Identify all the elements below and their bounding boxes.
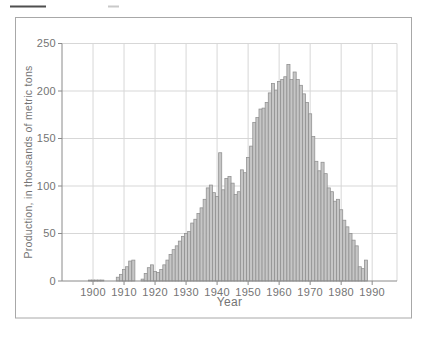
histogram-bar: [163, 265, 166, 281]
histogram-bar: [346, 227, 349, 281]
figure-page: 0501001502002501900191019201930194019501…: [0, 0, 429, 337]
histogram-bar: [262, 108, 265, 281]
histogram-bar: [222, 190, 225, 281]
histogram-bar: [147, 268, 150, 281]
histogram-bar: [306, 102, 309, 281]
x-tick-label: 1970: [297, 286, 323, 298]
x-axis-title: Year: [217, 295, 242, 309]
y-axis-title: Production, in thousands of metric tons: [22, 65, 34, 258]
histogram-bar: [194, 219, 197, 281]
y-tick-label: 50: [43, 227, 56, 239]
histogram-bar: [290, 80, 293, 281]
histogram-bar: [237, 192, 240, 281]
histogram-bar: [247, 158, 250, 282]
histogram-bar: [330, 192, 333, 281]
x-tick-label: 1980: [328, 286, 354, 298]
histogram-bar: [268, 93, 271, 281]
histogram-bar: [240, 170, 243, 281]
histogram-bar: [116, 277, 119, 281]
histogram-bar: [191, 223, 194, 281]
histogram-bar: [157, 272, 160, 281]
histogram-bar: [309, 114, 312, 281]
histogram-bar: [343, 220, 346, 281]
histogram-bar: [355, 246, 358, 281]
histogram-bar: [271, 83, 274, 281]
histogram-bar: [274, 90, 277, 281]
x-tick-label: 1920: [142, 286, 168, 298]
histogram-bar: [278, 82, 281, 282]
histogram-bar: [293, 72, 296, 281]
histogram-bar: [318, 171, 321, 281]
histogram-bar: [231, 183, 234, 281]
histogram-bar: [203, 199, 206, 281]
histogram-bar: [175, 246, 178, 281]
histogram-bar: [321, 162, 324, 281]
histogram-bar: [265, 102, 268, 281]
histogram-bar: [206, 188, 209, 281]
y-tick-label: 200: [37, 85, 56, 97]
histogram-bar: [122, 270, 125, 281]
histogram-bar: [312, 137, 315, 281]
histogram-bar: [234, 195, 237, 281]
histogram-bar: [228, 177, 231, 282]
histogram-bar: [181, 236, 184, 281]
histogram-bar: [178, 241, 181, 281]
histogram-bar: [119, 274, 122, 281]
histogram-bar: [296, 80, 299, 281]
y-tick-label: 0: [50, 275, 56, 287]
histogram-bar: [333, 201, 336, 281]
histogram-bar: [287, 64, 290, 281]
histogram-bar: [315, 161, 318, 281]
histogram-bar: [132, 260, 135, 281]
histogram-bar: [327, 188, 330, 281]
histogram-bar: [209, 185, 212, 281]
y-tick-label: 150: [37, 132, 56, 144]
x-tick-label: 1910: [111, 286, 137, 298]
histogram-bar: [361, 269, 364, 281]
histogram-bar: [281, 80, 284, 281]
histogram-bar: [259, 109, 262, 281]
histogram-bar: [352, 240, 355, 281]
histogram-bar: [256, 118, 259, 281]
histogram-bar: [154, 272, 157, 282]
histogram-bar: [144, 273, 147, 281]
histogram-bar: [200, 208, 203, 281]
histogram-bar: [349, 234, 352, 282]
histogram-bar: [188, 232, 191, 281]
histogram-bar: [302, 94, 305, 281]
histogram-bar: [169, 254, 172, 281]
histogram-bar: [166, 260, 169, 281]
histogram-bar: [129, 261, 132, 281]
histogram-bar: [340, 210, 343, 281]
histogram-bar: [284, 77, 287, 281]
histogram-bar: [197, 214, 200, 281]
histogram-bar: [358, 267, 361, 281]
y-tick-label: 250: [37, 37, 56, 49]
x-tick-label: 1960: [266, 286, 292, 298]
histogram-bar: [299, 85, 302, 281]
histogram-bar: [160, 270, 163, 281]
histogram-bar: [337, 199, 340, 281]
histogram-bar: [324, 174, 327, 281]
histogram-chart: 0501001502002501900191019201930194019501…: [0, 0, 429, 337]
x-tick-label: 1900: [80, 286, 106, 298]
histogram-bar: [225, 178, 228, 281]
y-tick-label: 100: [37, 180, 56, 192]
x-tick-label: 1990: [359, 286, 385, 298]
x-tick-label: 1930: [173, 286, 199, 298]
histogram-bar: [219, 153, 222, 281]
histogram-bar: [185, 234, 188, 282]
histogram-bar: [216, 196, 219, 281]
histogram-bar: [364, 260, 367, 281]
histogram-bar: [250, 146, 253, 281]
histogram-bar: [253, 122, 256, 281]
histogram-bar: [150, 265, 153, 281]
histogram-bar: [172, 250, 175, 281]
histogram-bar: [243, 173, 246, 281]
histogram-bar: [212, 193, 215, 281]
histogram-bar: [126, 267, 129, 281]
